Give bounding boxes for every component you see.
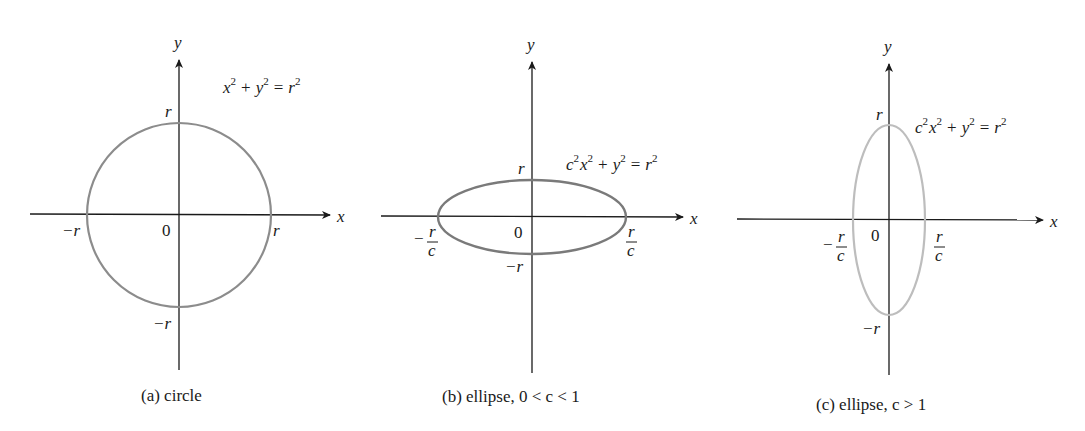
y-pos-label: r [876, 105, 883, 124]
origin-label: 0 [162, 221, 171, 240]
svg-text:r: r [628, 222, 635, 241]
circle-equation: x2+y2=r2 [222, 75, 300, 97]
x-pos-fraction-label: r c [934, 227, 945, 265]
caption-c: (c) ellipse, c > 1 [816, 395, 926, 414]
x-pos-fraction-label: r c [626, 222, 637, 260]
x-neg-fraction-label: − r c [823, 227, 847, 265]
y-neg-label: −r [862, 319, 880, 338]
panel-b-ellipse-wide: x y r −r 0 − r c r c c2x2+y2=r2 (b) elli… [381, 35, 698, 406]
x-axis [30, 214, 330, 215]
svg-text:c: c [837, 246, 845, 265]
svg-text:−: − [414, 229, 424, 248]
svg-text:c: c [428, 241, 436, 260]
svg-text:r: r [936, 227, 943, 246]
x-pos-label: r [273, 221, 280, 240]
ellipse-equation: c2x2+y2=r2 [566, 152, 657, 174]
caption-a: (a) circle [141, 386, 202, 405]
svg-text:c: c [627, 241, 635, 260]
ellipse-equation: c2x2+y2=r2 [915, 115, 1006, 137]
svg-text:−: − [823, 235, 833, 254]
y-neg-label: −r [505, 257, 523, 276]
x-axis [737, 219, 1043, 220]
svg-text:c: c [935, 246, 943, 265]
x-axis-label: x [1049, 212, 1058, 231]
conic-figure: x y r −r −r r 0 x2+y2=r2 (a) circle x y … [0, 0, 1085, 431]
panel-a-circle: x y r −r −r r 0 x2+y2=r2 (a) circle [30, 33, 345, 405]
caption-b: (b) ellipse, 0 < c < 1 [442, 387, 580, 406]
svg-text:r: r [838, 227, 845, 246]
origin-label: 0 [514, 223, 523, 242]
y-neg-label: −r [153, 314, 171, 333]
y-axis-label: y [882, 37, 892, 56]
y-pos-label: r [518, 159, 525, 178]
y-axis-label: y [525, 35, 535, 54]
origin-label: 0 [871, 226, 880, 245]
x-neg-label: −r [62, 221, 80, 240]
x-axis-label: x [689, 209, 698, 228]
svg-text:r: r [429, 222, 436, 241]
y-pos-label: r [165, 102, 172, 121]
y-axis-label: y [172, 33, 182, 52]
x-axis-label: x [336, 207, 345, 226]
x-neg-fraction-label: − r c [414, 222, 438, 260]
panel-c-ellipse-tall: x y r −r 0 − r c r c c2x2+y2=r2 (c) elli… [737, 37, 1058, 414]
